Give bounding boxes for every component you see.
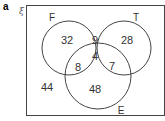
set-t-circle xyxy=(97,21,151,75)
set-f-label: F xyxy=(49,12,55,23)
region-f-and-t: 9 xyxy=(92,34,98,46)
region-t-only: 28 xyxy=(121,34,133,46)
region-f-t-e: 4 xyxy=(92,50,98,62)
venn-diagram: ξ F T E 32 9 28 8 4 7 48 44 xyxy=(0,0,165,121)
region-e-only: 48 xyxy=(89,83,101,95)
region-f-only: 32 xyxy=(61,34,73,46)
universal-set-symbol: ξ xyxy=(19,6,25,16)
set-f-circle xyxy=(42,21,96,75)
set-t-label: T xyxy=(133,12,139,23)
set-e-label: E xyxy=(118,105,125,116)
region-t-and-e: 7 xyxy=(109,60,115,72)
region-outside: 44 xyxy=(41,81,53,93)
region-f-and-e: 8 xyxy=(75,61,81,73)
